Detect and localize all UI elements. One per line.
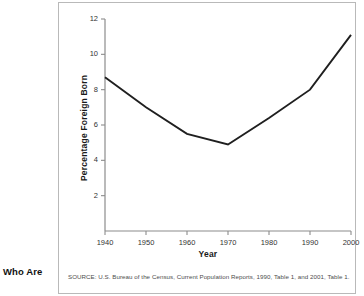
y-tick-label: 10 — [78, 49, 98, 58]
x-tick-marks — [105, 231, 351, 235]
y-axis-title: Percentage Foreign Born — [79, 75, 89, 181]
x-tick-label: 1970 — [211, 238, 245, 247]
source-note: SOURCE: U.S. Bureau of the Census, Curre… — [68, 272, 351, 281]
x-tick-label: 2000 — [334, 238, 364, 247]
x-tick-label: 1960 — [170, 238, 204, 247]
data-series-line — [105, 35, 351, 145]
x-tick-label: 1990 — [293, 238, 327, 247]
plot-area: 24681012 1940195019601970198019902000 Pe… — [59, 3, 355, 293]
x-tick-label: 1940 — [88, 238, 122, 247]
x-tick-label: 1980 — [252, 238, 286, 247]
page-side-caption: Who Are — [3, 266, 55, 278]
x-tick-label: 1950 — [129, 238, 163, 247]
figure-frame: 24681012 1940195019601970198019902000 Pe… — [58, 2, 356, 294]
y-tick-label: 12 — [78, 14, 98, 23]
y-tick-label: 2 — [78, 191, 98, 200]
x-axis-title: Year — [59, 249, 357, 259]
